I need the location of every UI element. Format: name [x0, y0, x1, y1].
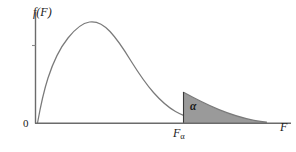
chart-canvas — [0, 0, 296, 152]
x-axis-label: F — [280, 121, 287, 133]
f-distribution-figure: f(F) F 0 Fα α — [0, 0, 296, 152]
density-curve — [38, 22, 184, 123]
critical-value-subscript: α — [180, 131, 184, 141]
y-axis-label: f(F) — [33, 6, 52, 18]
critical-value-label: Fα — [173, 127, 185, 141]
origin-label: 0 — [23, 118, 29, 129]
shaded-area-label: α — [190, 101, 196, 113]
